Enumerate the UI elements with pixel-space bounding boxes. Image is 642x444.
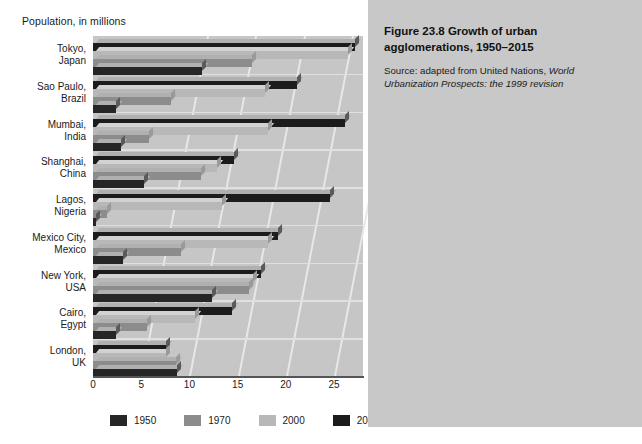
bar-top-face bbox=[96, 63, 208, 67]
category-label-line: UK bbox=[50, 357, 86, 369]
bar-top-face bbox=[96, 228, 284, 232]
category-label-line: Tokyo, bbox=[57, 43, 86, 55]
floor-separator bbox=[93, 149, 363, 151]
bar-1950-mumbai bbox=[93, 143, 121, 151]
bar-top-face bbox=[96, 77, 304, 81]
bar-top-face bbox=[96, 131, 155, 135]
category-label-new-york: New York,USA bbox=[41, 270, 86, 294]
category-label-line: Sao Paulo, bbox=[37, 81, 86, 93]
bar-top-face bbox=[96, 168, 207, 172]
category-label-tokyo: Tokyo,Japan bbox=[57, 43, 86, 67]
bar-face bbox=[93, 67, 202, 75]
bar-face bbox=[93, 105, 116, 113]
caption-source-title-2: the 1999 revision bbox=[487, 78, 563, 89]
x-tick-10: 10 bbox=[184, 379, 195, 390]
bar-face bbox=[93, 331, 116, 339]
legend-label-2000: 2000 bbox=[283, 415, 305, 426]
bar-top-face bbox=[96, 274, 259, 278]
floor-separator bbox=[93, 112, 363, 114]
category-label-line: London, bbox=[50, 345, 86, 357]
legend-swatch-1950 bbox=[110, 415, 127, 426]
floor-separator bbox=[93, 225, 363, 227]
bar-face bbox=[93, 256, 123, 264]
bar-top-face bbox=[96, 282, 255, 286]
category-label-line: USA bbox=[41, 282, 86, 294]
chart-panel: Population, in millions Tokyo,JapanSao P… bbox=[0, 0, 368, 444]
bar-1950-sao-paulo bbox=[93, 105, 116, 113]
category-label-mexico-city: Mexico City,Mexico bbox=[32, 232, 86, 256]
category-label-line: Mexico City, bbox=[32, 232, 86, 244]
category-label-shanghai: Shanghai,China bbox=[41, 156, 86, 180]
legend-item-1970: 1970 bbox=[184, 415, 230, 426]
category-label-line: Japan bbox=[57, 55, 86, 67]
bar-1950-lagos bbox=[93, 218, 96, 226]
category-label-line: Lagos, bbox=[54, 194, 86, 206]
figure-caption-panel: Figure 23.8 Growth of urban agglomeratio… bbox=[368, 7, 642, 427]
legend-label-1950: 1950 bbox=[134, 415, 156, 426]
legend-item-2000: 2000 bbox=[259, 415, 305, 426]
bar-face bbox=[93, 294, 212, 302]
bar-top-face bbox=[96, 290, 218, 294]
figure-caption-source: Source: adapted from United Nations, Wor… bbox=[384, 64, 626, 90]
legend-swatch-2015 bbox=[333, 415, 350, 426]
bar-top-face bbox=[96, 198, 228, 202]
x-axis-line bbox=[93, 376, 364, 378]
bar-face bbox=[93, 180, 144, 188]
bar-top-face bbox=[96, 152, 240, 156]
bar-top-face bbox=[96, 47, 354, 51]
bar-top-face bbox=[96, 311, 201, 315]
bar-1950-new-york bbox=[93, 294, 212, 302]
caption-source-prefix: Source: adapted from United Nations, bbox=[384, 65, 549, 76]
floor-separator bbox=[93, 338, 363, 340]
bar-top-face bbox=[96, 365, 183, 369]
category-label-line: Brazil bbox=[37, 93, 86, 105]
category-label-mumbai: Mumbai,India bbox=[48, 119, 86, 143]
category-label-line: Mumbai, bbox=[48, 119, 86, 131]
bar-1950-cairo bbox=[93, 331, 116, 339]
legend-swatch-2000 bbox=[259, 415, 276, 426]
category-label-line: Shanghai, bbox=[41, 156, 86, 168]
category-label-cairo: Cairo,Egypt bbox=[59, 307, 86, 331]
bar-top-face bbox=[96, 244, 187, 248]
bar-top-face bbox=[96, 39, 361, 43]
category-label-line: Egypt bbox=[59, 319, 86, 331]
legend-swatch-1970 bbox=[184, 415, 201, 426]
plot-area bbox=[93, 36, 363, 376]
bar-1950-shanghai bbox=[93, 180, 144, 188]
legend-label-1970: 1970 bbox=[208, 415, 230, 426]
category-label-line: China bbox=[41, 168, 86, 180]
bar-top-face bbox=[96, 115, 351, 119]
x-tick-25: 25 bbox=[329, 379, 340, 390]
category-label-line: Cairo, bbox=[59, 307, 86, 319]
legend-item-1950: 1950 bbox=[110, 415, 156, 426]
bar-1950-mexico-city bbox=[93, 256, 123, 264]
bar-top-face bbox=[96, 55, 258, 59]
category-label-line: Mexico bbox=[32, 244, 86, 256]
bar-top-face bbox=[96, 85, 271, 89]
chart-axis-title: Population, in millions bbox=[22, 15, 126, 27]
x-tick-20: 20 bbox=[280, 379, 291, 390]
bar-top-face bbox=[96, 266, 267, 270]
x-tick-0: 0 bbox=[90, 379, 96, 390]
category-label-lagos: Lagos,Nigeria bbox=[54, 194, 86, 218]
bar-1950-tokyo bbox=[93, 67, 202, 75]
chart-legend: 1950197020002015 bbox=[110, 410, 407, 430]
x-tick-5: 5 bbox=[138, 379, 144, 390]
caption-bottom-strip bbox=[368, 427, 642, 444]
category-label-line: Nigeria bbox=[54, 206, 86, 218]
category-label-sao-paulo: Sao Paulo,Brazil bbox=[37, 81, 86, 105]
bar-top-face bbox=[96, 93, 177, 97]
caption-top-band bbox=[368, 0, 642, 7]
category-label-line: India bbox=[48, 131, 86, 143]
bar-top-face bbox=[96, 123, 274, 127]
bar-top-face bbox=[96, 190, 336, 194]
bar-top-face bbox=[96, 303, 238, 307]
bar-top-face bbox=[96, 176, 150, 180]
figure-caption-title: Figure 23.8 Growth of urban agglomeratio… bbox=[384, 23, 626, 55]
bar-face bbox=[93, 143, 121, 151]
bar-top-face bbox=[96, 357, 182, 361]
category-axis-labels: Tokyo,JapanSao Paulo,BrazilMumbai,IndiaS… bbox=[0, 36, 86, 376]
bar-top-face bbox=[96, 341, 172, 345]
bar-top-face bbox=[96, 319, 153, 323]
category-label-line: New York, bbox=[41, 270, 86, 282]
